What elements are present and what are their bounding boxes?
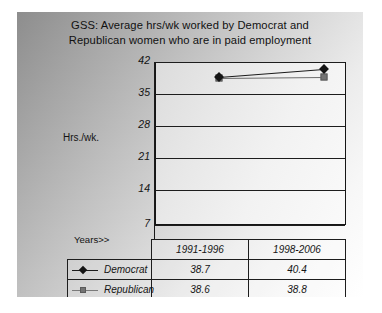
legend-item-republican[interactable]: Republican [68, 280, 152, 298]
y-label-42: 42 [110, 54, 150, 66]
republican-line [219, 77, 324, 79]
cell-democrat-1991-1996: 38.7 [152, 260, 249, 280]
y-tick-7 [154, 225, 160, 226]
table-header-1998-2006: 1998-2006 [249, 240, 346, 260]
table-header-1991-1996: 1991-1996 [152, 240, 249, 260]
chart-title-line-1: GSS: Average hrs/wk worked by Democrat a… [17, 18, 363, 33]
chart-title-line-2: Republican women who are in paid employm… [17, 33, 363, 48]
republican-point-1998-2006 [321, 73, 328, 80]
y-label-14: 14 [110, 182, 150, 194]
y-axis-title: Hrs./wk. [63, 132, 99, 143]
chart-title: GSS: Average hrs/wk worked by Democrat a… [17, 18, 363, 48]
y-label-35: 35 [110, 86, 150, 98]
slide-canvas: GSS: Average hrs/wk worked by Democrat a… [17, 12, 363, 297]
table-header-blank [68, 240, 152, 260]
table-header-row: 1991-1996 1998-2006 [68, 240, 346, 260]
square-marker-icon [80, 287, 86, 293]
table-row: Republican 38.6 38.8 [68, 280, 346, 298]
y-label-21: 21 [110, 150, 150, 162]
legend-item-democrat[interactable]: Democrat [68, 260, 152, 280]
legend-label-republican: Republican [104, 284, 154, 295]
series-layer [155, 62, 346, 225]
data-table: 1991-1996 1998-2006 Democrat 38.7 40.4 R… [67, 239, 346, 297]
y-label-7: 7 [110, 217, 150, 229]
cell-republican-1991-1996: 38.6 [152, 280, 249, 298]
legend-label-democrat: Democrat [104, 264, 147, 275]
cell-democrat-1998-2006: 40.4 [249, 260, 346, 280]
diamond-marker-icon [79, 265, 87, 273]
table-row: Democrat 38.7 40.4 [68, 260, 346, 280]
y-label-28: 28 [110, 118, 150, 130]
cell-republican-1998-2006: 38.8 [249, 280, 346, 298]
